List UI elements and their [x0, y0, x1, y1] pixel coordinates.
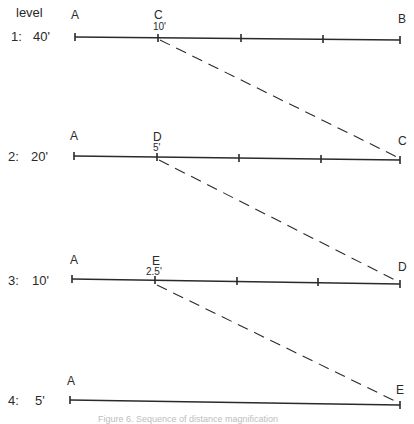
- level-4-label: 4:: [8, 394, 19, 407]
- level-4-line: [70, 400, 400, 405]
- level-1-point-left: A: [71, 9, 79, 21]
- level-1-mid-distance: 10': [153, 22, 166, 32]
- level-1-point-right: B: [398, 13, 406, 25]
- level-2-distance: 20': [31, 150, 48, 163]
- level-1-line: [75, 37, 400, 40]
- level-header: level: [16, 6, 43, 19]
- level-3-distance: 10': [32, 274, 49, 287]
- level-2-point-left: A: [70, 130, 78, 142]
- level-2-label: 2:: [8, 150, 19, 163]
- level-3-line: [72, 279, 400, 284]
- figure-caption: Figure 6. Sequence of distance magnifica…: [98, 415, 278, 424]
- level-3-point-left: A: [70, 254, 78, 266]
- projection-line-1-2: [160, 40, 397, 157]
- level-3-mid-distance: 2.5': [146, 267, 162, 277]
- level-4-point-right: E: [396, 384, 404, 396]
- projection-line-2-3: [159, 160, 397, 281]
- projection-line-3-4: [157, 285, 397, 402]
- level-2-point-right: C: [398, 135, 407, 147]
- level-4-point-left: A: [67, 375, 75, 387]
- level-3-label: 3:: [8, 274, 19, 287]
- level-3-point-right: D: [398, 261, 407, 273]
- level-1-label: 1:: [11, 30, 22, 43]
- level-1-point-mid: C: [154, 9, 163, 21]
- level-4-distance: 5': [35, 394, 45, 407]
- level-2-line: [74, 156, 400, 160]
- level-1-distance: 40': [33, 30, 50, 43]
- level-2-mid-distance: 5': [153, 143, 160, 153]
